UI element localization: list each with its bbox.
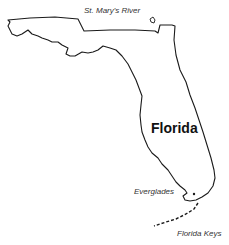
st-marys-river-label: St. Mary's River (84, 6, 140, 15)
everglades-label: Everglades (134, 187, 174, 196)
everglades-marker (193, 193, 195, 195)
florida-keys-label: Florida Keys (177, 229, 221, 238)
florida-state-outline (8, 17, 215, 201)
florida-keys-chain (154, 203, 198, 226)
st-marys-river-marker (150, 17, 155, 23)
map-title: Florida (151, 120, 198, 136)
